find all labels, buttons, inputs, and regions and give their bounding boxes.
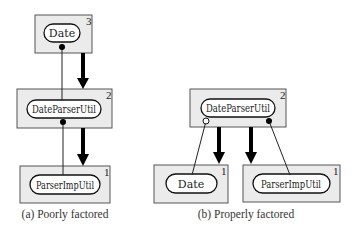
arrow-down-icon [245, 152, 257, 164]
open-dot-icon [203, 118, 209, 124]
module-label: Date [49, 27, 75, 40]
filled-dot-icon [266, 118, 272, 124]
caption-poorly-factored: (a) Poorly factored [22, 208, 109, 221]
module-box-parserimputil-a: ParserImpUtil 1 [20, 166, 110, 203]
module-box-date-b: Date 1 [154, 165, 228, 203]
arrow-down-icon [213, 152, 225, 164]
module-label: DateParserUtil [206, 102, 270, 115]
module-label: ParserImpUtil [36, 179, 94, 192]
level-badge: 1 [104, 166, 110, 178]
filled-dot-icon [59, 44, 65, 50]
module-label: DateParserUtil [32, 103, 96, 116]
panel-properly-factored: DateParserUtil 2 Date 1 ParserImpUtil 1 … [154, 89, 340, 221]
caption-properly-factored: (b) Properly factored [198, 208, 295, 221]
level-badge: 2 [106, 89, 112, 101]
filled-dot-icon [60, 119, 66, 125]
arrow-down-icon [77, 78, 89, 89]
module-box-parserimputil-b: ParserImpUtil 1 [243, 165, 340, 202]
panel-poorly-factored: Date 3 DateParserUtil 2 ParserImpUtil 1 … [17, 15, 112, 221]
level-badge: 1 [221, 165, 227, 177]
factoring-diagram: Date 3 DateParserUtil 2 ParserImpUtil 1 … [0, 0, 358, 232]
level-badge: 3 [86, 15, 92, 27]
module-label: Date [178, 178, 204, 191]
level-badge: 1 [333, 165, 339, 177]
level-badge: 2 [280, 89, 286, 101]
arrow-down-icon [77, 154, 89, 166]
module-label: ParserImpUtil [261, 178, 321, 191]
